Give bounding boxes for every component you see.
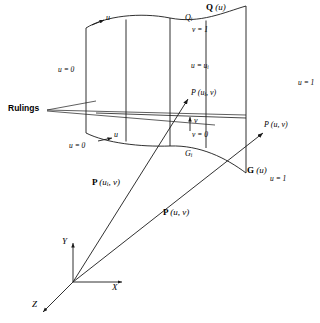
label-vector-P-ui-v: P (ui, v) — [92, 178, 120, 187]
surface-ruling-lines — [86, 6, 246, 173]
label-point-P-u-v: P (u, v) — [264, 121, 288, 129]
label-Q-curve: Q (u) — [206, 3, 226, 12]
label-G-i: Gi — [185, 150, 192, 159]
surface-bottom-edge-curve — [86, 133, 246, 173]
label-point-P-ui-v: P (ui, v) — [191, 89, 216, 98]
figure-canvas: Q (u) Qi v = 1 u = ui P (ui, v) v v = 0 … — [0, 0, 320, 323]
label-u-equals-0-bottom: u = 0 — [69, 142, 85, 150]
label-v-equals-1: v = 1 — [192, 26, 208, 34]
label-v-axis: v — [194, 117, 198, 125]
label-axis-y: Y — [62, 237, 67, 246]
label-Q-i: Qi — [185, 14, 192, 23]
label-u-equals-1-right: u = 1 — [298, 79, 314, 87]
label-G-curve: G (u) — [247, 166, 267, 175]
axis-z-line — [43, 282, 73, 312]
diagram-vector-graphics — [0, 0, 320, 323]
label-u-equals-ui: u = ui — [191, 62, 209, 70]
label-v-equals-0: v = 0 — [192, 131, 208, 139]
u-direction-arrow-top — [92, 20, 104, 25]
label-u-equals-1-bottom: u = 1 — [270, 175, 286, 183]
rulings-leader-lines — [47, 101, 246, 125]
label-u-arrow-bottom: u — [114, 131, 118, 139]
label-rulings: Rulings — [8, 104, 39, 113]
label-u-arrow-top: u — [106, 14, 110, 22]
position-vector-P-ui-v — [73, 99, 188, 282]
label-axis-x: X — [112, 283, 118, 292]
label-vector-P-u-v: P (u, v) — [163, 208, 189, 217]
label-u-equals-0-left: u = 0 — [58, 66, 74, 74]
label-axis-z: Z — [32, 300, 37, 309]
